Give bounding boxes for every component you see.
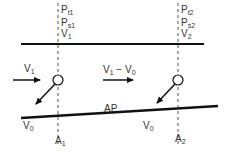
label-v0-right: V0: [143, 121, 154, 132]
label-v2: V2: [181, 29, 192, 40]
label-plate-ap: AP: [104, 104, 117, 114]
label-inlet-v1: V1: [24, 64, 35, 75]
deflection-arrow-1: [36, 84, 55, 104]
particle-circle-1: [53, 75, 63, 85]
label-pt1: Pt1: [61, 5, 74, 16]
plate-line-ap: [21, 106, 218, 118]
label-a2: A2: [175, 134, 186, 145]
particle-circle-2: [173, 75, 183, 85]
label-v0-left: V0: [23, 121, 34, 132]
label-pt2: Pt2: [181, 5, 194, 16]
deflection-arrow-2: [157, 84, 175, 103]
label-relative-velocity: V1 − V0: [103, 65, 136, 76]
label-v1-top: V1: [61, 29, 72, 40]
label-a1: A1: [55, 136, 66, 147]
